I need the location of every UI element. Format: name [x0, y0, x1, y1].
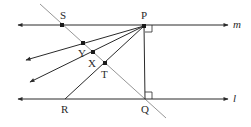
- label-t: T: [101, 68, 108, 80]
- right-angle-mark-q: [145, 92, 152, 99]
- label-m: m: [233, 18, 241, 30]
- label-x: X: [88, 57, 96, 69]
- point-y: [81, 41, 85, 45]
- label-r: R: [61, 103, 69, 115]
- right-angle-mark-p: [145, 25, 152, 32]
- label-q: Q: [141, 103, 149, 115]
- label-p: P: [141, 9, 147, 21]
- point-t: [103, 61, 107, 65]
- point-s: [60, 23, 64, 27]
- label-y: Y: [78, 47, 86, 59]
- label-s: S: [60, 9, 66, 21]
- segment-pq: [144, 25, 145, 99]
- point-x: [91, 50, 95, 54]
- geometry-diagram: S P Y X T R Q m l: [0, 0, 251, 127]
- label-l: l: [233, 92, 236, 104]
- point-p: [142, 24, 146, 28]
